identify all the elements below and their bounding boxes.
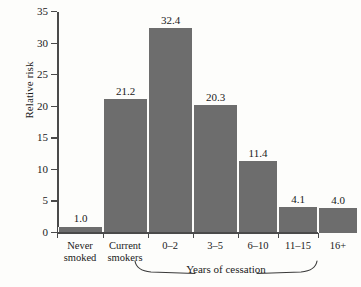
bar-slot: 1.0 — [58, 12, 103, 233]
y-tick-mark — [51, 137, 57, 138]
bar-value-label: 4.0 — [304, 194, 361, 206]
plot-area: 1.0 21.2 32.4 20.3 11.4 4.1 4.0 — [58, 12, 318, 233]
y-tick-label: 0 — [8, 227, 48, 238]
y-tick-label: 25 — [8, 69, 48, 80]
bar-slot: 32.4 — [148, 12, 193, 233]
y-tick-label: 10 — [8, 164, 48, 175]
x-tick-mark — [238, 233, 239, 238]
bar[interactable] — [318, 208, 358, 233]
y-tick-label: 20 — [8, 101, 48, 112]
bar[interactable] — [148, 28, 193, 233]
x-tick-mark — [318, 233, 319, 238]
bar[interactable] — [278, 207, 318, 233]
y-tick-mark — [51, 74, 57, 75]
bar[interactable] — [193, 105, 238, 233]
y-tick-mark — [51, 43, 57, 44]
y-tick-label: 35 — [8, 6, 48, 17]
y-tick-mark — [51, 200, 57, 201]
x-axis-group-label: Years of cessation — [133, 263, 319, 276]
x-tick-mark — [278, 233, 279, 238]
y-tick-label: 15 — [8, 132, 48, 143]
bar[interactable] — [103, 99, 148, 233]
y-tick-mark — [51, 169, 57, 170]
y-tick-mark — [51, 11, 57, 12]
bar-slot: 4.0 — [318, 12, 358, 233]
y-tick-label: 5 — [8, 195, 48, 206]
x-tick-mark — [103, 233, 104, 238]
x-tick-mark — [57, 233, 58, 238]
x-tick-mark — [193, 233, 194, 238]
y-tick-label: 30 — [8, 38, 48, 49]
y-tick-mark — [51, 106, 57, 107]
bar-slot: 20.3 — [193, 12, 238, 233]
x-tick-label: 16+ — [310, 240, 361, 252]
bar-slot: 21.2 — [103, 12, 148, 233]
x-tick-mark — [148, 233, 149, 238]
